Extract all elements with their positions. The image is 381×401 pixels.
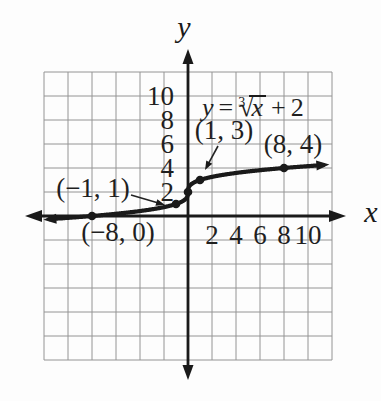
- x-tick-label: 4: [229, 223, 243, 247]
- equation-constant: 2: [291, 93, 304, 122]
- root-index: 3: [238, 95, 245, 110]
- point-dot: [196, 176, 205, 185]
- equation-plus: +: [271, 93, 286, 122]
- x-axis-right-arrow-icon: [329, 210, 346, 222]
- point-label: (1, 3): [195, 117, 253, 143]
- y-axis-up-arrow-icon: [183, 49, 194, 64]
- cube-root-graph-figure: y x y=3√x+2 10 8 6 4 2 2 4 6 8 10 (−8, 0…: [0, 0, 381, 401]
- point-dot: [184, 188, 193, 197]
- point-label: (−1, 1): [56, 175, 130, 201]
- annotation-arrow-head-icon: [205, 160, 212, 170]
- annotation-arrow-line: [131, 195, 159, 203]
- point-label: (−8, 0): [81, 219, 155, 245]
- x-tick-label: 6: [253, 223, 267, 247]
- x-tick-label: 10: [295, 223, 322, 247]
- x-axis-label: x: [364, 195, 377, 229]
- y-tick-label: 2: [161, 180, 175, 204]
- y-axis-label: y: [177, 10, 190, 44]
- curve-right-arrow-icon: [316, 160, 329, 170]
- x-tick-label: 8: [277, 223, 291, 247]
- y-axis-down-arrow-icon: [183, 365, 194, 380]
- annotation-arrow-line: [208, 146, 218, 165]
- point-label: (8, 4): [264, 131, 322, 157]
- x-tick-label: 2: [205, 223, 219, 247]
- x-axis-left-arrow-icon: [25, 210, 42, 222]
- point-dot: [280, 164, 289, 173]
